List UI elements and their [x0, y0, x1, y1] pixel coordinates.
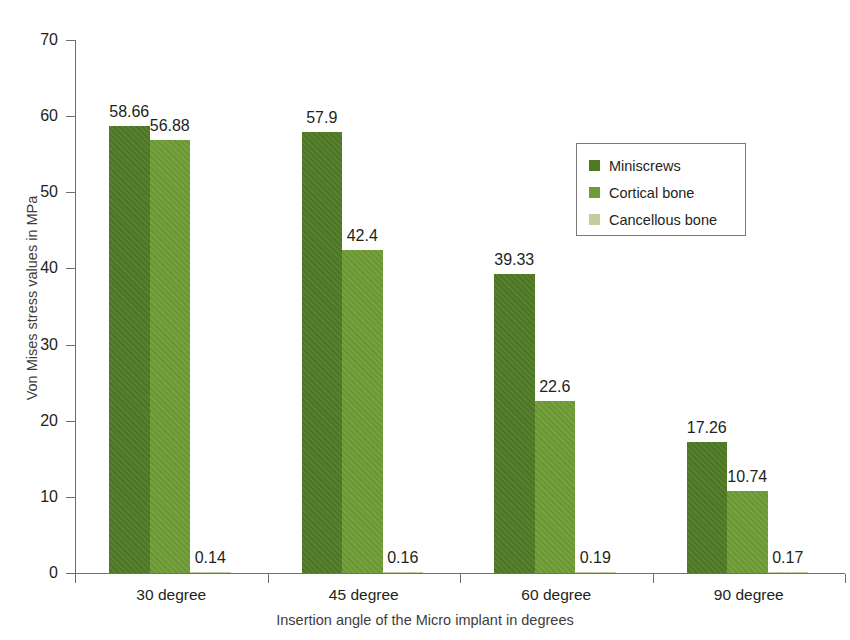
x-tick-4: [845, 574, 846, 583]
bars-layer: 58.6657.939.3317.2656.8842.422.610.740.1…: [0, 40, 850, 573]
bar-value-label-cancellous-bone-1: 0.16: [387, 549, 418, 567]
bar-miniscrews-0: [109, 126, 150, 573]
x-category-label-1: 45 degree: [268, 586, 461, 604]
x-category-label-2: 60 degree: [460, 586, 653, 604]
bar-value-label-cancellous-bone-2: 0.19: [580, 549, 611, 567]
bar-cancellous-bone-2: [575, 572, 616, 573]
bar-value-label-miniscrews-3: 17.26: [687, 419, 727, 437]
bar-cancellous-bone-1: [383, 572, 424, 573]
bar-cortical-bone-0: [150, 140, 191, 573]
legend-item-miniscrews: Miniscrews: [589, 153, 745, 178]
x-tick-2: [460, 574, 461, 583]
legend-swatch-cortical-bone: [589, 187, 600, 198]
legend-label-cancellous-bone: Cancellous bone: [609, 212, 717, 228]
legend-swatch-cancellous-bone: [589, 214, 600, 225]
x-tick-0: [75, 574, 76, 583]
bar-chart-figure: Von Mises stress values in MPa Insertion…: [0, 0, 850, 640]
x-tick-1: [268, 574, 269, 583]
bar-cortical-bone-2: [535, 401, 576, 573]
legend-label-miniscrews: Miniscrews: [609, 158, 681, 174]
x-tick-3: [653, 574, 654, 583]
x-category-label-0: 30 degree: [75, 586, 268, 604]
legend-label-cortical-bone: Cortical bone: [609, 185, 694, 201]
bar-value-label-miniscrews-2: 39.33: [494, 251, 534, 269]
legend-item-cancellous-bone: Cancellous bone: [589, 207, 745, 232]
bar-miniscrews-3: [687, 442, 728, 573]
legend-item-cortical-bone: Cortical bone: [589, 180, 745, 205]
bar-value-label-cancellous-bone-3: 0.17: [772, 549, 803, 567]
bar-value-label-cortical-bone-3: 10.74: [727, 468, 767, 486]
bar-miniscrews-1: [302, 132, 343, 573]
bar-value-label-cortical-bone-1: 42.4: [347, 227, 378, 245]
bar-value-label-cancellous-bone-0: 0.14: [195, 549, 226, 567]
x-category-label-3: 90 degree: [653, 586, 846, 604]
bar-value-label-miniscrews-1: 57.9: [306, 109, 337, 127]
y-tick-0: [66, 573, 75, 574]
bar-miniscrews-2: [494, 274, 535, 573]
bar-value-label-cortical-bone-2: 22.6: [539, 378, 570, 396]
bar-value-label-cortical-bone-0: 56.88: [150, 117, 190, 135]
bar-cortical-bone-1: [342, 250, 383, 573]
bar-cortical-bone-3: [727, 491, 768, 573]
bar-value-label-miniscrews-0: 58.66: [109, 103, 149, 121]
chart-legend: Miniscrews Cortical bone Cancellous bone: [576, 143, 746, 236]
bar-cancellous-bone-0: [190, 572, 231, 573]
bar-cancellous-bone-3: [768, 572, 809, 573]
x-axis-title: Insertion angle of the Micro implant in …: [0, 612, 850, 628]
legend-swatch-miniscrews: [589, 160, 600, 171]
